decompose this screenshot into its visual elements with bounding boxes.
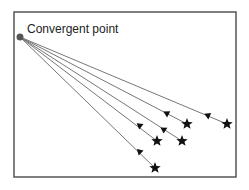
frame-border xyxy=(14,12,236,177)
convergent-point-label: Convergent point xyxy=(27,22,119,36)
arrowhead-icon xyxy=(137,149,144,156)
ray-line xyxy=(20,37,187,124)
ray-line xyxy=(20,37,182,141)
rays-group xyxy=(20,37,233,173)
ray-line xyxy=(20,37,227,124)
ray-line xyxy=(20,37,155,168)
star-icon xyxy=(181,118,192,129)
convergent-point-dot xyxy=(17,34,24,41)
arrowhead-icon xyxy=(204,113,211,119)
star-icon xyxy=(151,135,162,146)
diagram-canvas: Convergent point xyxy=(0,0,249,190)
star-icon xyxy=(221,118,232,129)
star-icon xyxy=(176,135,187,146)
ray-line xyxy=(20,37,157,141)
